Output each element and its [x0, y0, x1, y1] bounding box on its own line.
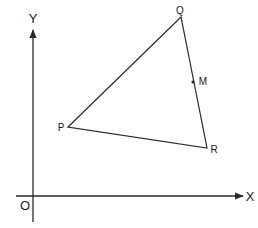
origin-label: O	[20, 198, 30, 213]
point-r-label: R	[210, 144, 217, 155]
y-axis-label: Y	[29, 11, 38, 26]
x-axis-label: X	[246, 189, 255, 204]
coordinate-diagram: Y X O Q P R M	[0, 0, 258, 228]
point-m-dot	[191, 80, 194, 83]
triangle-pqr	[68, 17, 207, 148]
point-m-label: M	[199, 76, 207, 87]
point-q-label: Q	[176, 5, 184, 16]
point-p-label: P	[58, 122, 65, 133]
